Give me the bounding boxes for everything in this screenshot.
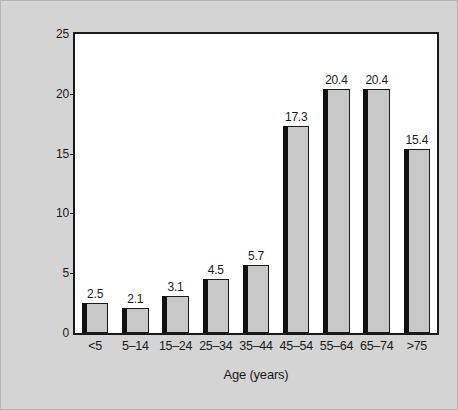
y-tick-label: 10 <box>56 206 69 220</box>
y-tick-label: 25 <box>56 27 69 41</box>
x-axis-title: Age (years) <box>73 367 439 382</box>
x-axis-ticks: <55–1415–2425–3435–4445–5455–6465–74>75 <box>73 339 439 359</box>
x-tick-label: <5 <box>88 339 102 353</box>
x-tick-label: 55–64 <box>320 339 353 353</box>
y-tick-label: 0 <box>63 326 69 340</box>
y-tick-label: 20 <box>56 87 69 101</box>
x-tick-label: 15–24 <box>159 339 192 353</box>
x-tick-label: 35–44 <box>239 339 272 353</box>
y-tick-label: 5 <box>63 266 69 280</box>
x-tick-label: 65–74 <box>360 339 393 353</box>
x-tick-label: 5–14 <box>122 339 149 353</box>
x-tick-label: 25–34 <box>199 339 232 353</box>
x-tick-label: 45–54 <box>280 339 313 353</box>
y-tick-label: 15 <box>56 147 69 161</box>
x-tick-label: >75 <box>407 339 427 353</box>
plot-area <box>73 32 439 335</box>
chart-figure: Annual Incidence per 105 Persons 0510152… <box>0 0 458 410</box>
